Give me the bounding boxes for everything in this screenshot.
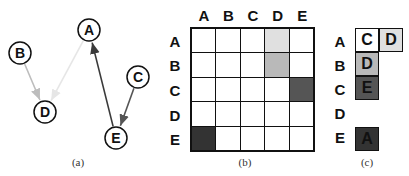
matrix-row-header: A [170, 32, 181, 49]
matrix-row-header: D [170, 106, 181, 123]
matrix-row-header: C [170, 82, 181, 99]
caption-c: (c) [361, 156, 373, 168]
matrix-cell-c-e [289, 77, 315, 103]
list-entry-a-c: C [355, 28, 379, 52]
matrix-cell-e-b [215, 126, 241, 152]
list-row-header: D [335, 105, 346, 122]
svg-text:E: E [111, 130, 120, 146]
matrix-cell-c-b [215, 77, 241, 103]
matrix-col-header: C [248, 7, 259, 24]
matrix-cell-c-d [264, 77, 290, 103]
matrix-col-header: A [198, 7, 209, 24]
matrix-cell-a-c [240, 28, 266, 54]
matrix-cell-a-a [191, 28, 217, 54]
list-entry-b-d: D [355, 52, 379, 76]
node-e: E [105, 127, 127, 149]
matrix-cell-a-b [215, 28, 241, 54]
adjacency-matrix [190, 27, 315, 152]
matrix-col-header: E [297, 7, 307, 24]
svg-text:B: B [15, 45, 25, 61]
list-row-header: A [335, 33, 346, 50]
matrix-cell-e-e [289, 126, 315, 152]
matrix-col-header: D [272, 7, 283, 24]
edge-a-to-d [51, 41, 83, 101]
matrix-cell-d-b [215, 101, 241, 127]
matrix-cell-e-c [240, 126, 266, 152]
matrix-cell-c-a [191, 77, 217, 103]
caption-b: (b) [239, 156, 252, 168]
matrix-row-header: E [170, 131, 180, 148]
matrix-cell-d-d [264, 101, 290, 127]
matrix-cell-d-e [289, 101, 315, 127]
list-row-header: C [335, 81, 346, 98]
svg-text:A: A [84, 22, 94, 38]
matrix-cell-d-c [240, 101, 266, 127]
matrix-cell-b-d [264, 52, 290, 78]
matrix-cell-b-e [289, 52, 315, 78]
node-c: C [127, 66, 149, 88]
matrix-cell-e-a [191, 126, 217, 152]
node-d: D [34, 101, 56, 123]
list-entry-e-a: A [355, 127, 379, 151]
panel-a-graph: ABCDE (a) [0, 0, 160, 176]
matrix-cell-b-c [240, 52, 266, 78]
list-entry-c-e: E [355, 76, 379, 100]
graph-nodes: ABCDE [9, 19, 149, 149]
node-b: B [9, 42, 31, 64]
matrix-cell-b-a [191, 52, 217, 78]
matrix-cell-d-a [191, 101, 217, 127]
edge-c-to-e [120, 88, 134, 125]
matrix-cell-a-d [264, 28, 290, 54]
matrix-cell-a-e [289, 28, 315, 54]
matrix-cell-e-d [264, 126, 290, 152]
graph-canvas: ABCDE [0, 0, 160, 156]
matrix-row-header: B [170, 57, 181, 74]
matrix-cell-b-b [215, 52, 241, 78]
svg-text:D: D [40, 104, 50, 120]
list-entry-a-d: D [379, 28, 403, 52]
edge-b-to-d [25, 64, 40, 100]
edge-e-to-a [92, 43, 113, 127]
node-a: A [78, 19, 100, 41]
matrix-col-header: B [223, 7, 234, 24]
list-row-header: E [335, 129, 345, 146]
matrix-cell-c-c [240, 77, 266, 103]
list-row-header: B [335, 57, 346, 74]
svg-text:C: C [133, 69, 143, 85]
caption-a: (a) [72, 156, 84, 168]
